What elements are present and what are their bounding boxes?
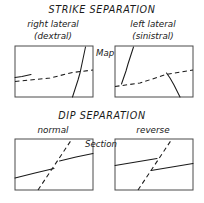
right-lateral-panel-frame xyxy=(15,46,93,97)
dip-separation-title: DIP SEPARATION xyxy=(58,110,145,121)
panel-right-lateral xyxy=(15,46,93,97)
left-lateral-panel-frame xyxy=(115,46,193,97)
left-lateral-caption-secondary: (sinistral) xyxy=(132,31,173,41)
section-strike-separation: STRIKE SEPARATION right lateral (dextral… xyxy=(15,4,193,97)
reverse-panel-frame xyxy=(115,139,193,190)
panel-normal xyxy=(15,139,93,190)
normal-panel-frame xyxy=(15,139,93,190)
right-lateral-caption-secondary: (dextral) xyxy=(34,31,72,41)
panel-left-lateral xyxy=(115,46,193,97)
panel-reverse xyxy=(115,139,193,190)
section-dip-separation: DIP SEPARATION normal reverse Section xyxy=(15,110,193,190)
fault-separation-figure: STRIKE SEPARATION right lateral (dextral… xyxy=(0,0,204,203)
strike-separation-title: STRIKE SEPARATION xyxy=(48,4,155,15)
reverse-caption-primary: reverse xyxy=(136,125,170,135)
section-view-label: Section xyxy=(85,139,117,149)
figure-canvas: STRIKE SEPARATION right lateral (dextral… xyxy=(0,0,204,203)
left-lateral-caption-primary: left lateral xyxy=(130,19,176,29)
right-lateral-caption-primary: right lateral xyxy=(27,19,79,29)
normal-caption-primary: normal xyxy=(38,125,70,135)
map-view-label: Map xyxy=(96,48,115,58)
